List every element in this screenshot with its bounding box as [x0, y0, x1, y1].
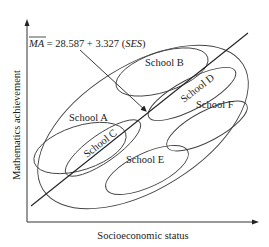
equation-close: ): [142, 38, 146, 50]
school-c-label: School C: [81, 127, 118, 160]
x-axis-label: Socioeconomic status: [97, 230, 188, 241]
y-axis-label: Mathematics achievement: [11, 70, 22, 180]
school-a-label: School A: [69, 112, 108, 123]
equation-rhs: = 28.587 + 3.327 (: [44, 38, 125, 50]
regression-equation: MA = 28.587 + 3.327 (SES): [28, 37, 146, 50]
equation-pointer-arrow: [80, 50, 146, 111]
diagram-canvas: MA = 28.587 + 3.327 (SES) School A Schoo…: [0, 0, 269, 247]
school-ellipses: [28, 38, 254, 204]
school-e-label: School E: [126, 154, 164, 165]
school-b-label: School B: [145, 57, 184, 68]
school-e-ellipse: [99, 136, 195, 205]
y-axis-arrow-icon: [25, 19, 30, 26]
equation-lhs: MA: [28, 38, 45, 49]
x-axis-arrow-icon: [252, 220, 259, 225]
school-f-label: School F: [196, 99, 234, 110]
svg-text:MA = 28.587 + 3.327 (SES): MA = 28.587 + 3.327 (SES): [28, 38, 146, 50]
equation-var: SES: [125, 38, 143, 49]
